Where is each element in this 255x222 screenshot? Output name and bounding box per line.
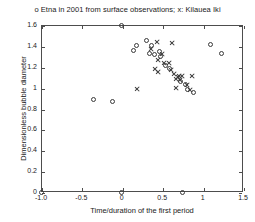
x-axis-tick [204,26,205,29]
data-point-kilauea-iki [174,77,179,82]
chart-title: o Etna in 2001 from surface observations… [0,5,255,14]
data-point-etna [185,87,190,92]
data-point-kilauea-iki [170,40,175,45]
x-axis-tick [123,188,124,191]
y-axis-tick [42,47,45,48]
y-axis-label: Dimensionless bubble diameter [19,39,28,179]
data-point-etna [152,52,157,57]
data-point-kilauea-iki [162,60,167,65]
y-axis-tick [42,172,45,173]
data-point-kilauea-iki [171,72,176,77]
data-point-etna [167,66,172,71]
y-axis-tick [239,110,242,111]
y-axis-tick-label: 1.2 [27,63,37,71]
y-axis-tick-label: 0.8 [27,105,37,113]
plot-axes-box [41,25,243,192]
data-point-kilauea-iki [175,75,180,80]
data-point-kilauea-iki [179,74,184,79]
data-point-kilauea-iki [156,58,161,63]
y-axis-tick-label: 1.6 [27,21,37,29]
scatter-plot-figure: o Etna in 2001 from surface observations… [0,0,255,222]
y-axis-tick-label: 0.4 [27,146,37,154]
y-axis-tick [239,68,242,69]
y-axis-tick [42,151,45,152]
data-point-kilauea-iki [187,87,192,92]
data-point-etna [183,82,188,87]
data-point-etna [191,90,196,95]
x-axis-tick [244,26,245,29]
data-point-etna [131,48,136,53]
x-axis-tick [82,188,83,191]
y-axis-tick [239,89,242,90]
y-axis-tick [42,110,45,111]
data-point-kilauea-iki [174,85,179,90]
y-axis-tick [239,151,242,152]
x-axis-tick [204,188,205,191]
data-point-kilauea-iki [154,39,159,44]
data-point-kilauea-iki [134,86,139,91]
data-point-kilauea-iki [190,74,195,79]
data-point-kilauea-iki [184,83,189,88]
data-point-etna [134,43,139,48]
x-axis-tick-label: 0.5 [157,194,167,202]
data-point-etna [157,49,162,54]
data-point-etna [219,51,224,56]
y-axis-tick [42,89,45,90]
y-axis-tick [239,130,242,131]
plot-data-area [42,26,242,191]
y-axis-tick [239,47,242,48]
data-point-etna [158,54,163,59]
y-axis-tick [42,26,45,27]
x-axis-tick [42,188,43,191]
data-point-etna [147,51,152,56]
data-point-etna [149,43,154,48]
data-point-kilauea-iki [166,60,171,65]
y-axis-tick [42,68,45,69]
data-point-etna [144,38,149,43]
y-axis-tick [239,26,242,27]
data-point-kilauea-iki [160,52,165,57]
y-axis-tick-label: 1.4 [27,42,37,50]
x-axis-tick [82,26,83,29]
y-axis-tick-label: 1 [33,84,37,92]
data-point-kilauea-iki [149,46,154,51]
y-axis-tick [42,130,45,131]
data-point-kilauea-iki [156,69,161,74]
x-axis-tick-label: 1.5 [238,194,248,202]
data-point-etna [178,79,183,84]
x-axis-tick-label: 0 [120,194,124,202]
data-point-etna [110,99,115,104]
y-axis-tick-label: 0.6 [27,125,37,133]
data-point-kilauea-iki [178,78,183,83]
x-axis-tick [123,26,124,29]
y-axis-tick-label: 0.2 [27,167,37,175]
x-axis-tick-label: 1 [201,194,205,202]
x-axis-tick [244,188,245,191]
data-point-etna [163,63,168,68]
y-axis-tick-label: 0 [33,188,37,196]
y-axis-tick [239,172,242,173]
data-point-etna [208,42,213,47]
x-axis-label: Time/duration of the first period [41,206,243,215]
x-axis-tick-label: -0.5 [75,194,87,202]
data-point-kilauea-iki [169,67,174,72]
x-axis-tick [163,26,164,29]
data-point-etna [91,97,96,102]
x-axis-tick [163,188,164,191]
data-point-kilauea-iki [177,74,182,79]
data-point-kilauea-iki [153,66,158,71]
